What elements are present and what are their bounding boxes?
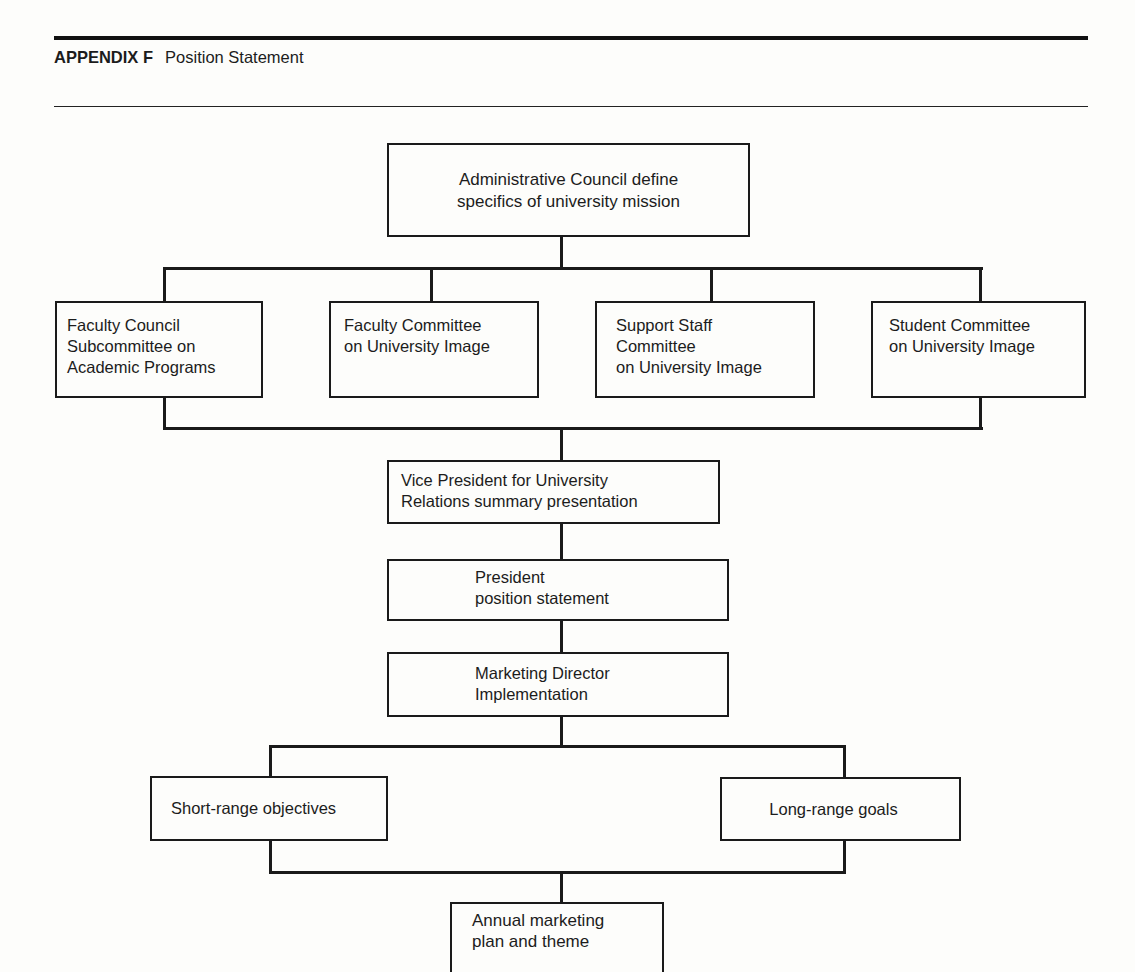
connector — [560, 871, 563, 903]
connector — [710, 267, 713, 302]
connector — [560, 236, 563, 270]
connector — [269, 840, 272, 873]
faculty-committee-box: Faculty Committee on University Image — [329, 301, 539, 398]
president-box: President position statement — [387, 559, 729, 621]
page-header: APPENDIX FPosition Statement — [54, 48, 304, 67]
connector — [163, 267, 983, 270]
connector — [430, 267, 433, 302]
connector — [560, 523, 563, 560]
connector — [979, 267, 982, 302]
connector — [163, 267, 166, 302]
connector — [560, 619, 563, 653]
connector — [269, 745, 272, 777]
appendix-label: APPENDIX F — [54, 48, 153, 66]
connector — [163, 427, 983, 430]
header-rule-thick — [54, 36, 1088, 40]
header-rule-thin — [54, 106, 1088, 107]
annual-marketing-plan-box: Annual marketing plan and theme — [450, 902, 664, 972]
support-staff-committee-box: Support Staff Committee on University Im… — [595, 301, 815, 398]
administrative-council-box: Administrative Council define specifics … — [387, 143, 750, 237]
connector — [560, 427, 563, 461]
connector — [979, 397, 982, 430]
student-committee-box: Student Committee on University Image — [871, 301, 1086, 398]
appendix-title: Position Statement — [165, 48, 304, 66]
vice-president-box: Vice President for University Relations … — [387, 460, 720, 524]
connector — [560, 715, 563, 748]
short-range-objectives-box: Short-range objectives — [150, 776, 388, 841]
connector — [843, 745, 846, 777]
connector — [843, 840, 846, 873]
connector — [269, 745, 846, 748]
marketing-director-box: Marketing Director Implementation — [387, 652, 729, 717]
faculty-council-box: Faculty Council Subcommittee on Academic… — [55, 301, 263, 398]
long-range-goals-box: Long-range goals — [720, 777, 961, 841]
connector — [269, 871, 846, 874]
connector — [163, 397, 166, 430]
